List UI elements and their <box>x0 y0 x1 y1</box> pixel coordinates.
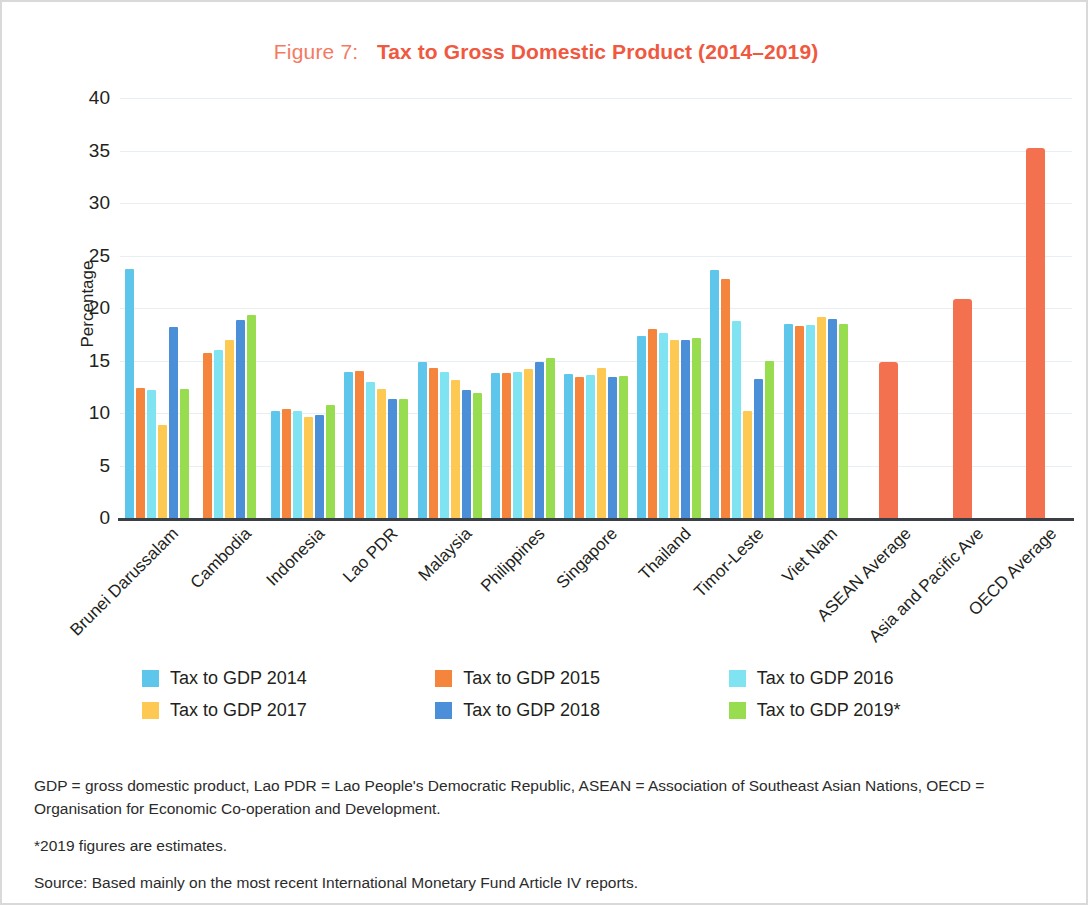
bar <box>564 374 573 518</box>
legend-item[interactable]: Tax to GDP 2018 <box>435 700 728 721</box>
bar <box>377 389 386 518</box>
bar <box>418 362 427 518</box>
y-axis-tick-label: 30 <box>62 192 110 214</box>
chart-plot-area: Percentage 4035302520151050 <box>2 98 1088 528</box>
figure-number: Figure 7: <box>274 40 359 63</box>
note-source: Source: Based mainly on the most recent … <box>34 871 1064 894</box>
bar <box>491 373 500 518</box>
bar <box>169 327 178 518</box>
bar <box>271 411 280 518</box>
y-axis-tick-label: 20 <box>62 297 110 319</box>
bar <box>765 361 774 519</box>
legend-item[interactable]: Tax to GDP 2014 <box>142 668 435 689</box>
legend-swatch-icon <box>142 702 159 719</box>
x-axis-tick-label: Timor-Leste <box>691 524 769 602</box>
bar-group <box>852 98 925 518</box>
bar <box>236 320 245 518</box>
legend-item[interactable]: Tax to GDP 2019* <box>729 700 1022 721</box>
legend-label: Tax to GDP 2015 <box>463 668 600 689</box>
bar <box>648 329 657 518</box>
x-axis-tick-label: Viet Nam <box>778 524 841 587</box>
bar <box>293 411 302 518</box>
bar-group <box>559 98 632 518</box>
bar <box>304 417 313 518</box>
x-axis-tick-label: Cambodia <box>187 524 256 593</box>
bar <box>754 379 763 518</box>
bar <box>326 405 335 518</box>
bar <box>203 353 212 518</box>
bar <box>586 375 595 518</box>
bar <box>710 270 719 518</box>
y-axis-tick-label: 40 <box>62 87 110 109</box>
x-axis-tick-label: Philippines <box>477 524 549 596</box>
figure-panel: Figure 7: Tax to Gross Domestic Product … <box>0 0 1088 905</box>
bar <box>158 425 167 518</box>
bar <box>839 324 848 518</box>
legend-item[interactable]: Tax to GDP 2015 <box>435 668 728 689</box>
bar <box>828 319 837 519</box>
x-axis-tick-label: Brunei Darussalam <box>66 524 182 640</box>
legend-label: Tax to GDP 2016 <box>757 668 894 689</box>
y-axis-tick-label: 35 <box>62 140 110 162</box>
legend-item[interactable]: Tax to GDP 2016 <box>729 668 1022 689</box>
bar <box>953 299 972 518</box>
bar <box>743 411 752 518</box>
x-axis-tick-label: Indonesia <box>263 524 329 590</box>
figure-title-row: Figure 7: Tax to Gross Domestic Product … <box>2 40 1088 64</box>
legend-item[interactable]: Tax to GDP 2017 <box>142 700 435 721</box>
bar <box>136 388 145 518</box>
bar-group <box>486 98 559 518</box>
y-axis-tick-label: 5 <box>62 455 110 477</box>
y-axis-tick-label: 25 <box>62 245 110 267</box>
legend-swatch-icon <box>729 702 746 719</box>
note-estimates: *2019 figures are estimates. <box>34 834 1064 857</box>
page-title: Tax to Gross Domestic Product (2014–2019… <box>377 40 818 63</box>
bar <box>681 340 690 519</box>
x-axis-tick-label: Thailand <box>635 524 695 584</box>
legend-swatch-icon <box>729 670 746 687</box>
bar-group <box>266 98 339 518</box>
bar <box>670 340 679 519</box>
bar-group <box>120 98 193 518</box>
legend-label: Tax to GDP 2014 <box>170 668 307 689</box>
x-axis-tick-label: Singapore <box>553 524 622 593</box>
bar <box>429 368 438 518</box>
bar <box>147 390 156 518</box>
legend-label: Tax to GDP 2017 <box>170 700 307 721</box>
bar <box>732 321 741 518</box>
bar <box>462 390 471 518</box>
y-axis-tick-label: 10 <box>62 402 110 424</box>
bar <box>440 372 449 518</box>
legend-label: Tax to GDP 2018 <box>463 700 600 721</box>
bar <box>473 393 482 518</box>
legend-label: Tax to GDP 2019* <box>757 700 901 721</box>
bar-group <box>926 98 999 518</box>
bar-group <box>999 98 1072 518</box>
bar <box>817 317 826 518</box>
bar <box>344 372 353 518</box>
bar <box>225 340 234 519</box>
bar <box>879 362 898 518</box>
x-axis-tick-label: Malaysia <box>414 524 476 586</box>
bar-group <box>193 98 266 518</box>
bar <box>535 362 544 518</box>
bar <box>388 399 397 518</box>
bar <box>355 371 364 518</box>
legend-swatch-icon <box>435 670 452 687</box>
bar <box>1026 148 1045 518</box>
bar <box>451 380 460 518</box>
chart-bars <box>120 98 1072 518</box>
legend-swatch-icon <box>142 670 159 687</box>
bar <box>608 377 617 518</box>
x-axis-tick-label: Lao PDR <box>340 524 403 587</box>
bar <box>784 324 793 518</box>
bar <box>513 372 522 518</box>
bar <box>180 389 189 518</box>
bar <box>692 338 701 518</box>
bar-group <box>779 98 852 518</box>
bar <box>247 315 256 518</box>
bar <box>366 382 375 519</box>
bar <box>795 326 804 518</box>
bar <box>575 377 584 518</box>
y-axis-tick-label: 15 <box>62 350 110 372</box>
